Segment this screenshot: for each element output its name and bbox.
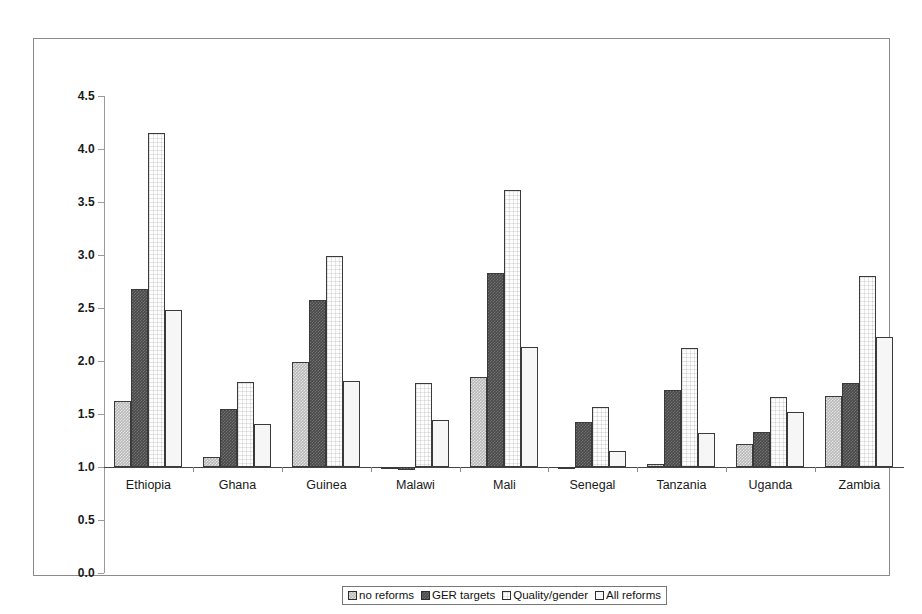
bar (647, 464, 664, 467)
category-label: Tanzania (637, 476, 726, 494)
bar (681, 348, 698, 467)
bar (842, 383, 859, 467)
bar (698, 433, 715, 467)
bar (470, 377, 487, 467)
legend-swatch-icon (421, 591, 430, 600)
bar (343, 381, 360, 467)
legend-item[interactable]: Quality/gender (502, 589, 588, 602)
y-axis-tick-label: 2.0 (78, 353, 95, 369)
legend-item[interactable]: no reforms (348, 589, 414, 602)
bar (575, 422, 592, 467)
y-axis-tick-label: 4.5 (78, 88, 95, 104)
bar-group (726, 96, 815, 573)
bar (859, 276, 876, 467)
category-label: Mali (460, 476, 549, 494)
bar (787, 412, 804, 467)
legend-label: no reforms (359, 589, 414, 602)
y-axis-tick-mark (98, 573, 104, 574)
bar (309, 300, 326, 467)
category-label: Zambia (815, 476, 904, 494)
bar (770, 397, 787, 467)
bar (292, 362, 309, 467)
bar-group (815, 96, 904, 573)
y-axis-tick-label: 0.0 (78, 565, 95, 581)
category-label: Ethiopia (104, 476, 193, 494)
bar-group (104, 96, 193, 573)
bar (381, 467, 398, 469)
bar-group (548, 96, 637, 573)
bar (558, 467, 575, 469)
bar-group (371, 96, 460, 573)
plot-area: 4.54.03.53.02.52.01.51.00.50.0 EthiopiaG… (104, 96, 904, 573)
bar (114, 401, 131, 467)
bar (825, 396, 842, 467)
legend-swatch-icon (595, 591, 604, 600)
bar (664, 390, 681, 467)
legend-label: All reforms (606, 589, 661, 602)
legend-label: Quality/gender (513, 589, 588, 602)
bar-group (193, 96, 282, 573)
legend-item[interactable]: All reforms (595, 589, 661, 602)
y-axis-tick-label: 1.0 (78, 459, 95, 475)
bar (131, 289, 148, 467)
bar (220, 409, 237, 467)
bar (876, 337, 893, 467)
legend-swatch-icon (348, 591, 357, 600)
y-axis-tick-label: 3.0 (78, 247, 95, 263)
category-label: Malawi (371, 476, 460, 494)
chart-figure: 4.54.03.53.02.52.01.51.00.50.0 EthiopiaG… (0, 0, 922, 614)
bar (415, 383, 432, 467)
bar-group (282, 96, 371, 573)
bar (165, 310, 182, 467)
y-axis-tick-label: 3.5 (78, 194, 95, 210)
bar (432, 420, 449, 467)
bar (254, 424, 271, 467)
bar (753, 432, 770, 467)
legend-swatch-icon (502, 591, 511, 600)
bar (592, 407, 609, 467)
bar (609, 451, 626, 467)
y-axis-tick-label: 0.5 (78, 512, 95, 528)
category-label: Ghana (193, 476, 282, 494)
figure-frame: 4.54.03.53.02.52.01.51.00.50.0 EthiopiaG… (33, 38, 890, 576)
bar-group (460, 96, 549, 573)
category-label: Senegal (548, 476, 637, 494)
bar (326, 256, 343, 467)
bar (487, 273, 504, 467)
legend-item[interactable]: GER targets (421, 589, 495, 602)
bar (148, 133, 165, 467)
y-axis-tick-label: 1.5 (78, 406, 95, 422)
category-label: Uganda (726, 476, 815, 494)
bar-group (637, 96, 726, 573)
legend-label: GER targets (432, 589, 495, 602)
bar (736, 444, 753, 467)
chart-legend: no reformsGER targetsQuality/genderAll r… (342, 586, 667, 605)
category-label: Guinea (282, 476, 371, 494)
bar (203, 457, 220, 467)
bar (521, 347, 538, 467)
bar (237, 382, 254, 467)
y-axis-tick-label: 2.5 (78, 300, 95, 316)
bar (398, 467, 415, 470)
bar (504, 190, 521, 467)
y-axis-tick-label: 4.0 (78, 141, 95, 157)
